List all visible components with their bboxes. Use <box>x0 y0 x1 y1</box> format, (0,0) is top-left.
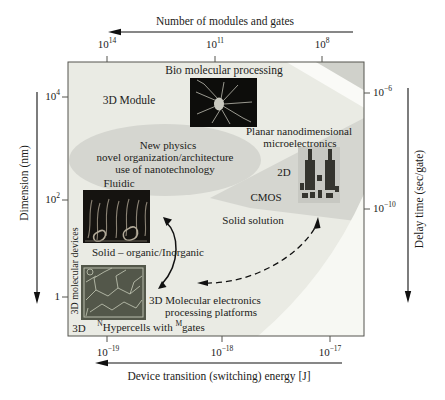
bottom-tick-3: 10−17 <box>319 346 342 358</box>
2d-label: 2D <box>277 166 290 178</box>
new-physics-line2: novel organization/architecture <box>97 151 234 163</box>
3d-molecular-devices-label: 3D molecular devices <box>69 227 80 314</box>
new-physics-line1: New physics <box>140 139 197 151</box>
hypercells-label: NHypercells with Mgates <box>97 321 204 333</box>
3d-label: 3D <box>72 322 85 334</box>
right-tick-2: 10−10 <box>373 202 396 214</box>
top-axis-title: Number of modules and gates <box>156 15 294 28</box>
planar-line1: Planar nanodimensional <box>246 125 352 137</box>
cmos-image <box>298 147 340 203</box>
module-3d-label: 3D Module <box>103 94 156 107</box>
top-tick-3: 108 <box>315 38 330 50</box>
bottom-tick-2: 10−18 <box>211 346 234 358</box>
new-physics-line3: use of nanotechnology <box>115 163 215 175</box>
cmos-label: CMOS <box>250 191 281 203</box>
figure-graphic <box>0 0 445 400</box>
left-tick-3: 1 <box>55 290 61 302</box>
molecular-network-image <box>81 265 146 320</box>
bio-processing-label: Bio molecular processing <box>165 64 283 77</box>
fluidic-image <box>83 190 150 243</box>
mol3d-line2: processing platforms <box>165 306 257 318</box>
neuron-image <box>190 78 257 127</box>
right-axis-title: Delay time (sec/gate) <box>413 150 426 248</box>
mol3d-line1: 3D Molecular electronics <box>149 294 261 306</box>
left-tick-1: 104 <box>45 90 60 102</box>
left-axis-title: Dimension (nm) <box>18 145 31 221</box>
solid-solution-label: Solid solution <box>222 214 283 226</box>
left-tick-2: 102 <box>45 193 60 205</box>
top-tick-1: 1014 <box>98 38 117 50</box>
top-tick-2: 1011 <box>206 38 224 50</box>
fluidic-label: Fluidic <box>103 177 134 189</box>
right-tick-1: 10−6 <box>373 86 392 98</box>
solid-organic-label: Solid – organic/Inorganic <box>92 246 204 258</box>
bottom-tick-1: 10−19 <box>97 346 120 358</box>
figure-canvas: Number of modules and gates Device trans… <box>0 0 445 400</box>
bottom-axis-title: Device transition (switching) energy [J] <box>127 370 310 383</box>
planar-line2: microelectronics <box>263 137 336 149</box>
